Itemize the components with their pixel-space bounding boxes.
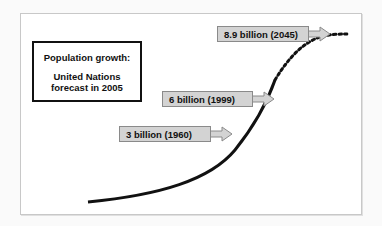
growth-curve	[0, 0, 382, 226]
title-line-2: United Nations	[34, 71, 140, 82]
annotation-2045: 8.9 billion (2045)	[217, 26, 309, 42]
chart-title-box: Population growth: United Nations foreca…	[32, 41, 142, 102]
arrow-icon	[210, 27, 330, 141]
title-line-1: Population growth:	[34, 52, 140, 63]
title-line-3: forecast in 2005	[51, 82, 123, 93]
annotation-1999: 6 billion (1999)	[162, 91, 253, 107]
annotation-1960: 3 billion (1960)	[119, 126, 211, 142]
